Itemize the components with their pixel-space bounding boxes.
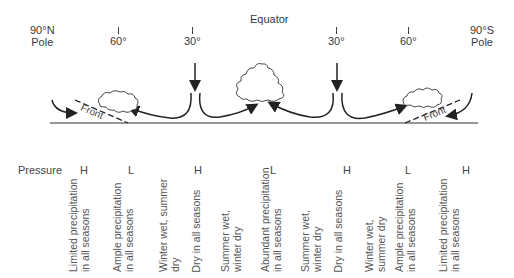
polar-easterly-arrow-north <box>52 100 75 113</box>
precip-label-5: Abundant precipitationin all seasons <box>260 172 290 272</box>
circulation-diagram: Front Front <box>0 0 514 160</box>
precip-label-8: Winter wet,summer dry <box>364 172 394 272</box>
precip-label-0: Limited precipitationin all seasons <box>68 172 98 272</box>
polar-easterly-arrow-south <box>448 93 472 116</box>
precip-label-1: Ample precipitationin all seasons <box>112 172 142 272</box>
precip-label-2: Winter wet, summerdry <box>158 172 188 272</box>
pressure-label: Pressure <box>18 164 62 176</box>
precip-label-6: Summer wet,winter dry <box>300 172 330 272</box>
westerly-arrow-north <box>130 93 191 118</box>
cloud-south-60 <box>403 88 442 108</box>
cloud-equator <box>236 64 284 102</box>
cloud-north-60 <box>98 91 138 113</box>
precip-label-4: Summer wet,winter dry <box>220 172 250 272</box>
precip-label-3: Dry in all seasons <box>191 172 221 272</box>
precip-label-9: Ample precipitationin all seasons <box>394 172 424 272</box>
westerly-arrow-south <box>342 93 405 118</box>
precip-label-7: Dry in all seasons <box>333 172 363 272</box>
precip-label-10: Limited precipitationin all seasons <box>438 172 468 272</box>
